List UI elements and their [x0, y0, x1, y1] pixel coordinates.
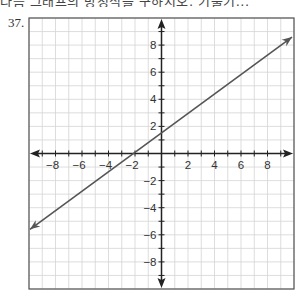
- x-tick-label: −8: [46, 159, 59, 171]
- coordinate-graph: −8−6−4−224688642−2−4−6−8: [0, 0, 304, 295]
- x-tick-label: −4: [99, 159, 113, 171]
- y-tick-label: −4: [143, 202, 157, 214]
- x-tick-label: −6: [72, 159, 85, 171]
- axes: [30, 19, 293, 288]
- y-tick-label: 8: [150, 39, 156, 51]
- x-tick-label: 6: [238, 159, 244, 171]
- y-tick-label: −6: [143, 229, 156, 241]
- x-tick-label: 4: [211, 159, 218, 171]
- y-tick-label: 4: [150, 93, 157, 105]
- y-tick-label: 2: [150, 120, 156, 132]
- y-tick-label: −2: [143, 175, 156, 187]
- x-tick-label: 8: [264, 159, 270, 171]
- x-tick-label: −2: [125, 159, 138, 171]
- y-tick-label: 6: [150, 66, 156, 78]
- x-tick-label: 2: [185, 159, 191, 171]
- y-tick-label: −8: [143, 256, 156, 268]
